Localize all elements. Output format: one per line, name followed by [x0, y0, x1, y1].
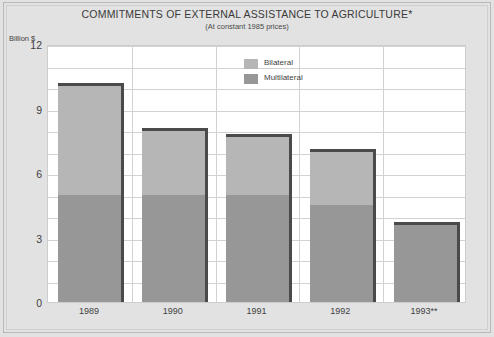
bar-stack[interactable] [394, 222, 457, 302]
bar-segment-bilateral[interactable] [310, 149, 373, 205]
y-axis-tick-labels: 036912 [0, 45, 42, 303]
bar-right-edge [289, 134, 292, 302]
chart-subtitle: (At constant 1985 prices) [0, 22, 494, 31]
bar-top-edge [394, 222, 457, 225]
bar-stack[interactable] [226, 134, 289, 302]
legend-label: Bilateral [264, 58, 293, 67]
x-tick-label: 1989 [79, 306, 99, 316]
gridline-horizontal [48, 46, 465, 47]
legend-label: Multilateral [264, 73, 303, 82]
x-axis-tick-labels: 19891990199119921993** [47, 306, 466, 326]
legend-item[interactable]: Bilateral [244, 58, 394, 70]
y-tick-label: 12 [2, 39, 42, 51]
legend-item[interactable]: Multilateral [244, 73, 394, 85]
y-tick-label: 3 [2, 233, 42, 245]
bar-right-edge [457, 222, 460, 302]
legend-swatch-icon [244, 59, 258, 69]
x-tick-label: 1992 [330, 306, 350, 316]
y-tick-label: 9 [2, 104, 42, 116]
bar-stack[interactable] [310, 149, 373, 302]
bar-segment-multilateral[interactable] [226, 195, 289, 303]
bar-stack[interactable] [58, 83, 121, 302]
bar-segment-multilateral[interactable] [58, 195, 121, 303]
bar-right-edge [373, 149, 376, 302]
chart-title: COMMITMENTS OF EXTERNAL ASSISTANCE TO AG… [0, 8, 494, 20]
bar-top-edge [58, 83, 121, 86]
bar-segment-multilateral[interactable] [310, 205, 373, 302]
bar-stack[interactable] [142, 128, 205, 302]
bar-right-edge [205, 128, 208, 302]
bar-top-edge [226, 134, 289, 137]
bar-segment-bilateral[interactable] [226, 134, 289, 194]
y-tick-label: 0 [2, 297, 42, 309]
bar-segment-bilateral[interactable] [58, 83, 121, 195]
bar-top-edge [142, 128, 205, 131]
x-tick-label: 1991 [246, 306, 266, 316]
bar-right-edge [121, 83, 124, 302]
chart-figure: COMMITMENTS OF EXTERNAL ASSISTANCE TO AG… [0, 0, 494, 337]
gridline-vertical [216, 46, 217, 302]
bar-segment-bilateral[interactable] [142, 128, 205, 195]
legend-swatch-icon [244, 74, 258, 84]
bar-segment-multilateral[interactable] [142, 195, 205, 303]
bar-top-edge [310, 149, 373, 152]
x-tick-label: 1993** [411, 306, 438, 316]
x-tick-label: 1990 [163, 306, 183, 316]
bar-segment-multilateral[interactable] [394, 222, 457, 302]
gridline-vertical [132, 46, 133, 302]
chart-legend: BilateralMultilateral [244, 58, 394, 88]
y-tick-label: 6 [2, 168, 42, 180]
